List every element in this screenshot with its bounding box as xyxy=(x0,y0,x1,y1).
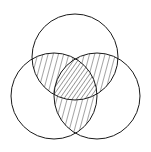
venn-diagram xyxy=(0,0,151,152)
